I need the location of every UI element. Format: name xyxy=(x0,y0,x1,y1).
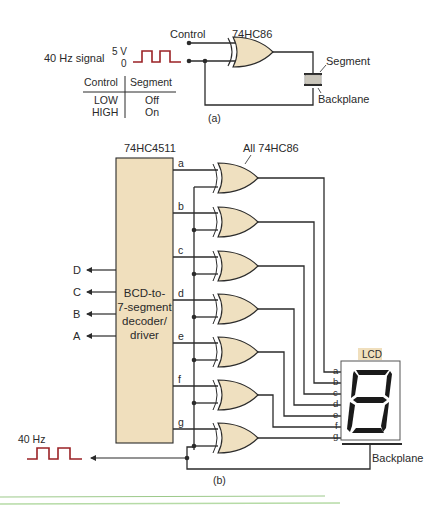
table-cell: Off xyxy=(145,94,159,106)
decoder-text-line: BCD-to- xyxy=(124,287,166,299)
decoder-text-line: decoder/ xyxy=(122,315,168,327)
xor-gate-a xyxy=(228,37,273,67)
lcd-segment-element xyxy=(304,73,322,86)
decoder-part-label: 74HC4511 xyxy=(124,142,176,154)
input-label-b: B xyxy=(73,308,80,320)
control-label: Control xyxy=(170,28,205,40)
clock-label: 40 Hz xyxy=(18,433,45,445)
signal-label: 40 Hz signal xyxy=(44,52,105,64)
lcd-pin-label: e xyxy=(333,409,338,420)
lcd-pin-label: a xyxy=(333,365,339,376)
divider-rule xyxy=(0,503,340,504)
xor-gate-row-c: c xyxy=(173,244,341,394)
square-wave-icon xyxy=(133,51,181,62)
xor-gate-row-f: f xyxy=(173,373,341,427)
lcd-label: LCD xyxy=(362,349,382,360)
backplane-label-b: Backplane xyxy=(372,452,423,464)
output-label: c xyxy=(178,244,183,256)
table-cell: HIGH xyxy=(92,106,118,118)
xor-gate-row-b: b xyxy=(173,200,341,383)
signal-low-label: 0 xyxy=(121,58,127,69)
table-header-segment: Segment xyxy=(130,76,172,88)
lcd-pin-label: g xyxy=(333,430,338,441)
segment-label: Segment xyxy=(326,55,370,67)
lcd-display: LCD a b c d e f g xyxy=(333,348,402,452)
square-wave-icon xyxy=(27,448,82,459)
table-cell: On xyxy=(145,106,159,118)
divider-rule xyxy=(0,496,325,497)
decoder-text-line: 7-segment xyxy=(117,301,172,313)
table-header-control: Control xyxy=(84,76,118,88)
caption-b: (b) xyxy=(213,474,226,486)
decoder-text-line: driver xyxy=(130,329,159,341)
backplane-label-a: Backplane xyxy=(318,93,369,105)
output-label: d xyxy=(178,287,184,299)
input-label-a: A xyxy=(73,330,81,342)
signal-high-label: 5 V xyxy=(112,46,127,57)
input-label-d: D xyxy=(73,264,81,276)
control-segment-table: Control Segment LOW Off HIGH On xyxy=(83,76,176,118)
lcd-pin-label: c xyxy=(333,387,338,398)
gates-label: All 74HC86 xyxy=(243,142,299,154)
input-label-c: C xyxy=(73,286,81,298)
xor-gate-row-d: d xyxy=(173,287,341,405)
decoder-inputs: D C B A xyxy=(73,264,116,342)
caption-a: (a) xyxy=(208,112,221,124)
lcd-pin-label: d xyxy=(333,398,338,409)
part-b: 74HC4511 BCD-to- 7-segment decoder/ driv… xyxy=(18,142,423,486)
output-label: a xyxy=(178,157,184,169)
output-label: g xyxy=(178,416,184,428)
output-label: e xyxy=(178,330,184,342)
lcd-pin-label: b xyxy=(333,376,338,387)
lcd-drive-diagram: Control 74HC86 40 Hz signal 5 V 0 Segme xyxy=(0,0,446,506)
part-a: Control 74HC86 40 Hz signal 5 V 0 Segme xyxy=(44,28,370,124)
xor-gate-row-g: g xyxy=(173,416,341,453)
table-cell: LOW xyxy=(94,94,118,106)
output-label: f xyxy=(178,373,181,385)
output-label: b xyxy=(178,200,184,212)
